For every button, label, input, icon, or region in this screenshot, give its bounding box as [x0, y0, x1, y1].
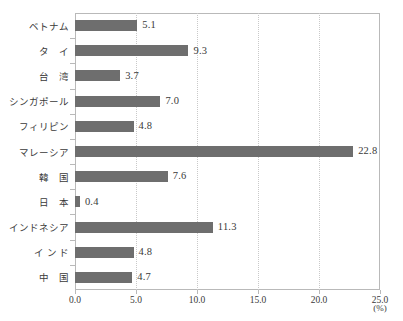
x-axis-tick: [380, 290, 381, 294]
x-axis-tick: [258, 290, 259, 294]
x-axis: 0.05.010.015.020.025.0: [0, 290, 403, 310]
x-axis-tick-label: 10.0: [189, 295, 206, 305]
y-axis-ticks: [0, 13, 403, 290]
bar-chart: 5.19.33.77.04.822.87.60.411.34.84.7 ベトナム…: [0, 0, 403, 321]
y-axis-tick: [70, 114, 75, 115]
y-axis-tick: [70, 240, 75, 241]
x-axis-tick-label: 0.0: [69, 295, 81, 305]
x-axis-tick: [75, 290, 76, 294]
x-axis-tick: [197, 290, 198, 294]
x-axis-tick: [136, 290, 137, 294]
y-axis-tick: [70, 164, 75, 165]
y-axis-tick: [70, 189, 75, 190]
y-axis-tick: [70, 38, 75, 39]
y-axis-tick: [70, 214, 75, 215]
x-axis-tick-label: 15.0: [250, 295, 267, 305]
x-axis-tick-label: 20.0: [311, 295, 328, 305]
x-axis-tick-label: 5.0: [130, 295, 142, 305]
x-axis-tick: [319, 290, 320, 294]
y-axis-tick: [70, 89, 75, 90]
y-axis-tick: [70, 63, 75, 64]
y-axis-tick: [70, 139, 75, 140]
axis-unit-label: (%): [373, 303, 387, 313]
y-axis-tick: [70, 265, 75, 266]
